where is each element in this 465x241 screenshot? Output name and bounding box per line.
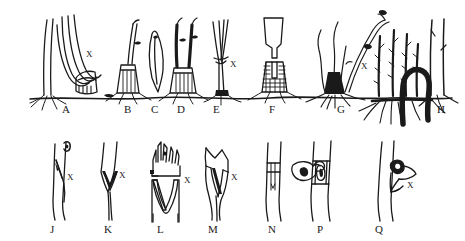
panel-label-h: H bbox=[437, 104, 445, 115]
panel-label-m: M bbox=[208, 224, 218, 235]
x-marker-e: X bbox=[230, 60, 237, 69]
panel-f bbox=[248, 18, 301, 103]
panel-b bbox=[106, 20, 151, 104]
panel-label-p: P bbox=[317, 224, 323, 235]
panel-label-n: N bbox=[268, 224, 276, 235]
panel-label-l: L bbox=[157, 224, 164, 235]
panel-label-k: K bbox=[104, 224, 112, 235]
panel-label-c: C bbox=[151, 104, 159, 115]
panel-label-b: B bbox=[124, 104, 132, 115]
panel-m bbox=[205, 148, 228, 221]
panel-c bbox=[149, 31, 163, 92]
panel-label-g: G bbox=[337, 104, 345, 115]
panel-label-q: Q bbox=[375, 224, 383, 235]
panel-label-d: D bbox=[177, 104, 185, 115]
panel-d bbox=[159, 18, 208, 104]
x-marker-m: X bbox=[231, 173, 238, 182]
figure-plate: A B C D E F G H X X X J K L M N P Q X X … bbox=[0, 0, 465, 241]
illustration-canvas bbox=[0, 0, 465, 241]
panel-label-j: J bbox=[50, 224, 55, 235]
x-marker-j: X bbox=[67, 173, 74, 182]
x-marker-k: X bbox=[119, 171, 126, 180]
panel-label-f: F bbox=[269, 104, 275, 115]
panel-g bbox=[306, 10, 389, 109]
x-marker-g: X bbox=[361, 62, 368, 71]
x-marker-l: X bbox=[184, 176, 191, 185]
panel-label-a: A bbox=[62, 104, 70, 115]
panel-label-e: E bbox=[213, 104, 220, 115]
x-marker-q: X bbox=[407, 181, 414, 190]
panel-p bbox=[311, 141, 331, 221]
x-marker-a: X bbox=[86, 50, 93, 59]
panel-a bbox=[30, 15, 114, 110]
panel-l bbox=[150, 142, 180, 222]
panel-k bbox=[101, 142, 118, 220]
